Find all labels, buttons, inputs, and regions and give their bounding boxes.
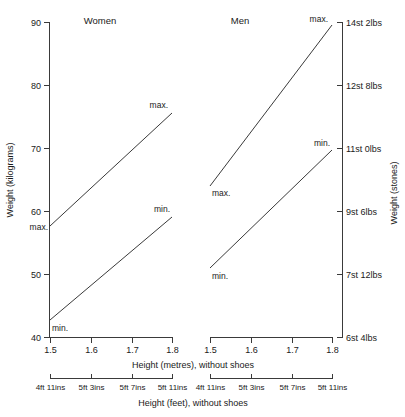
left-y-tick-label-40: 40 [31, 333, 41, 343]
men-feet-axis: 4ft 11ins 5ft 3ins 5ft 7ins 5ft 11ins [196, 374, 348, 392]
men-x-tick-label-1-6: 1.6 [245, 345, 258, 355]
men-x-tick-label-1-8: 1.8 [326, 345, 339, 355]
panel-title-women: Women [84, 15, 117, 26]
women-x-tick-label-1-6: 1.6 [85, 345, 98, 355]
panel-women: Women 1.5 1.6 1.7 1.8 max. max. min. min… [30, 15, 179, 355]
x-axis-title-feet: Height (feet), without shoes [138, 398, 248, 408]
panel-men: Men 1.5 1.6 1.7 1.8 max. max. min. min. [204, 14, 339, 355]
right-y-tick-label-12st8lbs: 12st 8lbs [346, 81, 383, 91]
women-feet-tick-label-3: 5ft 11ins [158, 383, 188, 392]
women-min-start-label: min. [52, 323, 68, 333]
men-min-line [210, 150, 332, 268]
right-y-tick-label-6st4lbs: 6st 4lbs [346, 333, 378, 343]
left-y-tick-label-80: 80 [31, 81, 41, 91]
men-min-label: min. [314, 138, 330, 148]
left-y-tick-label-60: 60 [31, 207, 41, 217]
left-y-tick-label-70: 70 [31, 144, 41, 154]
men-feet-tick-label-3: 5ft 11ins [318, 383, 348, 392]
men-feet-tick-label-1: 5ft 3ins [239, 383, 265, 392]
chart-figure: 90 80 70 60 50 40 Weight (kilograms) 14s… [0, 0, 405, 417]
right-y-tick-label-11st0lbs: 11st 0lbs [346, 144, 382, 154]
men-x-tick-label-1-5: 1.5 [204, 345, 217, 355]
right-y-tick-label-9st6lbs: 9st 6lbs [346, 207, 378, 217]
women-max-start-label: max. [30, 222, 48, 232]
women-x-tick-label-1-7: 1.7 [126, 345, 139, 355]
men-max-line [210, 25, 332, 186]
women-feet-axis: 4ft 11ins 5ft 3ins 5ft 7ins 5ft 11ins [36, 374, 188, 392]
men-max-label: max. [310, 14, 328, 24]
left-y-axis-title: Weight (kilograms) [5, 143, 15, 218]
left-y-tick-label-50: 50 [31, 270, 41, 280]
women-feet-tick-label-1: 5ft 3ins [79, 383, 105, 392]
right-y-tick-label-14st2lbs: 14st 2lbs [346, 18, 383, 28]
women-max-label: max. [150, 100, 168, 110]
left-y-tick-label-90: 90 [31, 18, 41, 28]
feet-axis: 4ft 11ins 5ft 3ins 5ft 7ins 5ft 11ins 4f… [36, 374, 348, 408]
left-y-axis: 90 80 70 60 50 40 Weight (kilograms) [5, 18, 50, 343]
men-max-start-label: max. [212, 188, 230, 198]
weight-height-chart-svg: 90 80 70 60 50 40 Weight (kilograms) 14s… [0, 0, 405, 417]
right-y-tick-label-7st12lbs: 7st 12lbs [346, 270, 383, 280]
women-x-tick-label-1-5: 1.5 [44, 345, 57, 355]
men-x-tick-label-1-7: 1.7 [286, 345, 299, 355]
men-x-axis-metres: 1.5 1.6 1.7 1.8 [204, 338, 339, 356]
women-feet-tick-label-0: 4ft 11ins [36, 383, 66, 392]
women-min-label: min. [154, 204, 170, 214]
men-min-start-label: min. [212, 271, 228, 281]
panel-title-men: Men [231, 15, 249, 26]
women-x-axis-metres: 1.5 1.6 1.7 1.8 [44, 338, 179, 356]
right-y-axis-title: Weight (stones) [389, 162, 399, 225]
men-feet-tick-label-2: 5ft 7ins [280, 383, 306, 392]
women-min-line [50, 217, 172, 320]
women-feet-tick-label-2: 5ft 7ins [120, 383, 146, 392]
right-y-axis: 14st 2lbs 12st 8lbs 11st 0lbs 9st 6lbs 7… [337, 18, 399, 343]
men-feet-tick-label-0: 4ft 11ins [196, 383, 226, 392]
x-axis-title-metres: Height (metres), without shoes [132, 360, 255, 370]
women-x-tick-label-1-8: 1.8 [166, 345, 179, 355]
